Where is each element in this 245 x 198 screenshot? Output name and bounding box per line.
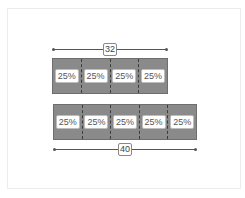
segment-percent-label: 25%	[112, 69, 136, 83]
segment-percent-label: 25%	[142, 115, 166, 129]
top-bar: 25% 25% 25% 25%	[52, 58, 168, 94]
bottom-segment: 25%	[139, 105, 168, 139]
top-segment: 25%	[53, 59, 81, 93]
bottom-segment: 25%	[167, 105, 196, 139]
bottom-segment: 25%	[82, 105, 111, 139]
bottom-dimension-label: 40	[118, 143, 132, 156]
segment-percent-label: 25%	[113, 115, 137, 129]
segment-percent-label: 25%	[55, 69, 79, 83]
top-segment: 25%	[81, 59, 110, 93]
segment-percent-label: 25%	[141, 69, 165, 83]
top-segment: 25%	[110, 59, 139, 93]
segment-percent-label: 25%	[84, 115, 108, 129]
diagram-frame	[7, 8, 241, 189]
segment-percent-label: 25%	[84, 69, 108, 83]
bottom-segment: 25%	[54, 105, 82, 139]
bottom-segment: 25%	[110, 105, 139, 139]
segment-percent-label: 25%	[170, 115, 194, 129]
top-segment: 25%	[138, 59, 167, 93]
bottom-bar: 25% 25% 25% 25% 25%	[53, 104, 197, 140]
top-dimension-label: 32	[103, 43, 117, 56]
segment-percent-label: 25%	[56, 115, 80, 129]
